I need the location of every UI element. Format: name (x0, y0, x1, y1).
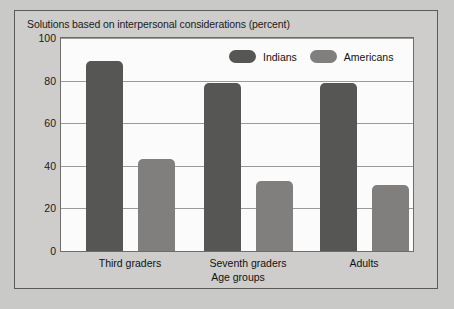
bar-indians-third-graders (86, 61, 123, 251)
gridline-0: 0 (61, 251, 413, 252)
x-axis-title: Age groups (211, 271, 265, 283)
xtick-label-adults: Adults (349, 257, 378, 269)
bar-americans-third-graders (138, 159, 175, 251)
plot-area: 100 80 60 40 20 0 Indians Americans (60, 37, 414, 252)
xtick-label-third-graders: Third graders (99, 257, 161, 269)
bar-indians-adults (320, 83, 357, 251)
chart-panel: Solutions based on interpersonal conside… (14, 10, 438, 289)
ytick-label-0: 0 (50, 245, 56, 257)
bar-americans-adults (372, 185, 409, 251)
ytick-label-100: 100 (38, 32, 56, 44)
ytick-label-40: 40 (44, 160, 56, 172)
bars-layer (61, 38, 413, 251)
chart-title: Solutions based on interpersonal conside… (27, 18, 290, 30)
bar-americans-seventh-graders (256, 181, 293, 251)
bar-indians-seventh-graders (204, 83, 241, 251)
ytick-label-20: 20 (44, 202, 56, 214)
xtick-label-seventh-graders: Seventh graders (209, 257, 286, 269)
ytick-label-60: 60 (44, 117, 56, 129)
ytick-label-80: 80 (44, 75, 56, 87)
